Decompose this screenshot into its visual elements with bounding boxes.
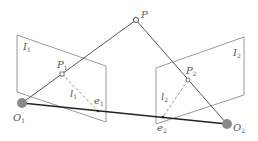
label-e2: e2	[157, 122, 167, 134]
label-p1: P1	[56, 59, 68, 71]
label-i1: I1	[22, 41, 31, 53]
point-p	[134, 18, 139, 23]
label-p: P	[140, 9, 148, 20]
image-plane-2	[156, 37, 244, 124]
epipolar-line-1	[62, 74, 98, 111]
baseline	[22, 103, 227, 124]
ray-o1-p	[22, 20, 136, 103]
epipole-e1	[97, 110, 100, 113]
camera-center-o2	[222, 119, 232, 129]
epipole-e2	[162, 116, 165, 119]
label-o1: O1	[13, 112, 25, 124]
label-l2: l2	[161, 91, 168, 103]
point-p1	[60, 72, 64, 76]
label-i2: I2	[232, 47, 241, 59]
label-e1: e1	[94, 95, 104, 107]
label-l1: l1	[70, 88, 77, 100]
camera-center-o1	[17, 98, 27, 108]
label-o2: O2	[233, 122, 245, 134]
epipolar-diagram: P I1 I2 P1 P2 l1 l2 e1 e2 O1 O2	[0, 0, 258, 141]
ray-p-o2	[136, 20, 227, 124]
label-p2: P2	[185, 65, 197, 77]
point-p2	[186, 78, 190, 82]
